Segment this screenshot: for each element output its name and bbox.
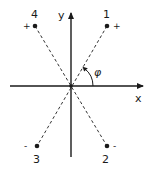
point-2-sign: - — [113, 141, 116, 151]
point-2-label: 2 — [102, 153, 109, 166]
point-3: 3 - — [24, 141, 40, 166]
point-4-sign: + — [23, 21, 31, 31]
point-1-label: 1 — [103, 8, 110, 21]
point-2: 2 - — [102, 141, 116, 166]
x-axis-label: x — [135, 92, 142, 105]
origin-point — [69, 84, 73, 88]
point-1-marker — [105, 24, 110, 29]
point-2-marker — [105, 144, 110, 149]
point-1: 1 + — [103, 8, 121, 31]
point-4-label: 4 — [31, 8, 38, 21]
point-3-marker — [35, 144, 40, 149]
point-4: 4 + — [23, 8, 38, 31]
point-1-sign: + — [113, 21, 121, 31]
y-axis-label: y — [58, 9, 65, 22]
point-3-sign: - — [24, 141, 27, 151]
point-4-marker — [33, 24, 38, 29]
quadrant-diagram: x y φ 1 + 2 - 3 - 4 + — [0, 0, 152, 173]
angle-arc — [85, 69, 94, 87]
point-3-label: 3 — [33, 153, 40, 166]
angle-label: φ — [94, 66, 102, 79]
